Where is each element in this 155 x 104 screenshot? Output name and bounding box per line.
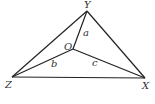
segment-oz (12, 49, 73, 77)
segment-label-a: a (83, 27, 89, 38)
vertex-label-z: Z (4, 79, 13, 90)
edge-zx (12, 77, 145, 78)
point-label-o: O (64, 41, 72, 52)
triangle-diagram: Y Z X O a b c (0, 0, 155, 104)
segment-label-b: b (51, 58, 57, 69)
edge-yz (12, 11, 87, 77)
vertex-label-y: Y (84, 0, 92, 10)
segment-label-c: c (92, 57, 98, 68)
vertex-label-x: X (141, 80, 150, 91)
segment-ox (73, 49, 145, 78)
